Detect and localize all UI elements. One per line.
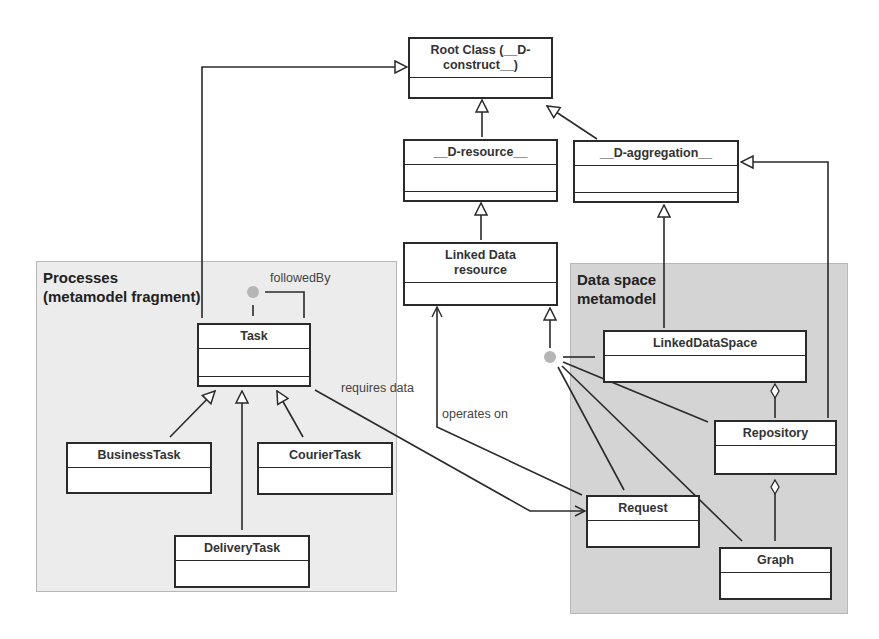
class-task-name: Task — [199, 325, 309, 349]
followedby-association — [253, 292, 304, 318]
class-linked-data-resource-name: Linked Data resource — [405, 244, 556, 283]
class-courier-task[interactable]: CourierTask — [257, 442, 393, 495]
class-task-operations — [199, 376, 309, 385]
class-root-attributes — [410, 78, 551, 97]
followedby-junction-dot — [247, 286, 259, 298]
class-linked-data-space[interactable]: LinkedDataSpace — [603, 330, 807, 383]
class-business-task-name: BusinessTask — [68, 444, 210, 468]
businesstask-to-task-generalization — [170, 391, 215, 437]
class-request-attributes — [588, 521, 698, 546]
class-request-name: Request — [588, 497, 698, 521]
class-d-resource-operations — [405, 191, 556, 200]
class-repository-attributes — [716, 446, 835, 473]
class-task-attributes — [199, 349, 309, 376]
class-repository-name: Repository — [716, 422, 835, 446]
couriertask-to-task-generalization — [277, 391, 303, 437]
operates-on-association — [437, 307, 582, 495]
class-d-aggregation-name: __D-aggregation__ — [575, 142, 737, 166]
class-business-task-attributes — [68, 468, 210, 492]
class-request[interactable]: Request — [586, 495, 700, 548]
class-business-task[interactable]: BusinessTask — [66, 442, 212, 494]
class-linked-data-resource-attributes — [405, 283, 556, 304]
class-d-aggregation-operations — [575, 192, 737, 201]
class-graph-attributes — [721, 573, 830, 598]
requires-data-label: requires data — [341, 381, 414, 395]
class-d-aggregation[interactable]: __D-aggregation__ — [573, 140, 739, 203]
class-d-aggregation-attributes — [575, 166, 737, 192]
class-delivery-task[interactable]: DeliveryTask — [174, 535, 310, 588]
junction-to-request — [558, 367, 624, 490]
class-delivery-task-attributes — [176, 561, 308, 586]
class-repository[interactable]: Repository — [714, 420, 837, 475]
class-root-name: Root Class (__D- construct__) — [410, 39, 551, 78]
class-root[interactable]: Root Class (__D- construct__) — [408, 37, 553, 99]
class-task[interactable]: Task — [197, 323, 311, 387]
class-graph[interactable]: Graph — [719, 547, 832, 600]
class-delivery-task-name: DeliveryTask — [176, 537, 308, 561]
class-courier-task-name: CourierTask — [259, 444, 391, 468]
operates-on-label: operates on — [442, 407, 508, 421]
followedby-label: followedBy — [270, 271, 330, 285]
class-d-resource[interactable]: __D-resource__ — [403, 139, 558, 202]
class-graph-name: Graph — [721, 549, 830, 573]
class-linked-data-resource[interactable]: Linked Data resource — [403, 242, 558, 306]
class-linked-data-space-name: LinkedDataSpace — [605, 332, 805, 356]
class-linked-data-space-attributes — [605, 356, 805, 381]
ldr-junction-dot — [544, 351, 556, 363]
class-d-resource-name: __D-resource__ — [405, 141, 556, 165]
class-courier-task-attributes — [259, 468, 391, 493]
class-d-resource-attributes — [405, 165, 556, 191]
daggregation-to-root-generalization — [547, 106, 597, 139]
